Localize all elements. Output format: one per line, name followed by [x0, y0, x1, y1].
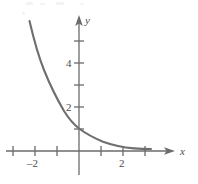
x-axis-group	[6, 146, 175, 156]
exponential-decay-curve	[30, 21, 152, 149]
x-tick-label-two: 2	[119, 157, 125, 169]
x-tick-label-minus-two: –2	[27, 157, 38, 169]
x-axis-label: x	[180, 145, 185, 157]
graph-figure: –2 2 2 4 x y	[0, 0, 198, 184]
y-tick-label-two: 2	[66, 101, 72, 113]
y-tick-label-four: 4	[66, 57, 72, 69]
y-axis-label: y	[85, 14, 90, 26]
